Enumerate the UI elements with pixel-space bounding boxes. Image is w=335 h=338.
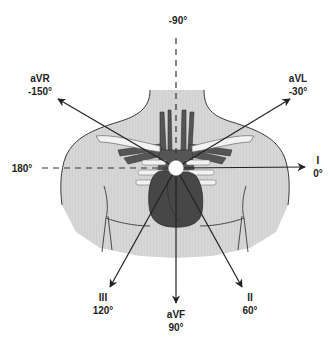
lead-III-label: III 120° [93,291,114,317]
lead-angle: -150° [28,85,52,98]
lead-name: I [313,154,323,167]
lead-name: III [93,291,114,304]
lead-name: II [242,291,257,304]
lead-angle: 0° [313,167,323,180]
diagram-canvas [0,0,335,338]
lead-angle: 60° [242,304,257,317]
lead-I-label: I 0° [313,154,323,180]
lead-aVL-label: aVL -30° [289,72,307,98]
axis-label-minus90: -90° [169,14,187,27]
lead-name: aVL [289,72,307,85]
lead-name: aVF [167,308,185,321]
lead-aVR-label: aVR -150° [28,72,52,98]
lead-name: aVR [28,72,52,85]
axis-label-180: 180° [12,162,33,175]
center-origin-dot [169,161,184,176]
hexaxial-diagram: -90° 180° I 0° aVL -30° aVR -150° II 60°… [0,0,335,338]
lead-angle: -30° [289,85,307,98]
lead-aVF-label: aVF 90° [167,308,185,334]
axis-label-text: -90° [169,15,187,26]
axis-label-text: 180° [12,163,33,174]
lead-angle: 120° [93,304,114,317]
lead-angle: 90° [167,321,185,334]
lead-II-label: II 60° [242,291,257,317]
